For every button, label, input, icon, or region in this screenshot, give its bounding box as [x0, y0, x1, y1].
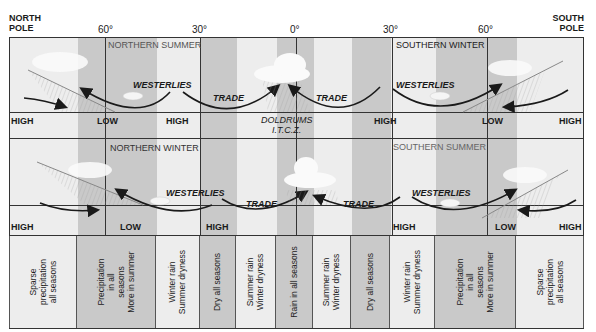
- season-label-southern-winter: SOUTHERN WINTER: [396, 40, 485, 50]
- pressure-label-low: LOW: [482, 116, 503, 126]
- precip-zone-dry-north: Dry all seasons: [200, 236, 236, 328]
- season-label-southern-summer: SOUTHERN SUMMER: [393, 142, 486, 152]
- wind-label-westerlies: WESTERLIES: [133, 80, 192, 90]
- precip-zone-text: Summer rain Winter dryness: [246, 254, 266, 311]
- pressure-label-high: HIGH: [559, 116, 582, 126]
- season-label-northern-winter: NORTHERN WINTER: [110, 143, 199, 153]
- precip-zone-text: Precipitation in all seasons More in sum…: [455, 251, 495, 312]
- pressure-label-high: HIGH: [11, 116, 34, 126]
- precip-zone-rain-all-seasons: Rain in all seasons: [276, 236, 313, 328]
- precip-zone-sparse-south: Sparse precipitation all seasons: [516, 236, 584, 328]
- pressure-label-high: HIGH: [559, 222, 582, 232]
- precip-zone-winter-rain-south: Winter rain Summer dryness: [390, 236, 435, 328]
- wind-label-trade: TRADE: [246, 199, 277, 209]
- pressure-label-high: HIGH: [166, 116, 189, 126]
- wind-label-trade: TRADE: [316, 93, 347, 103]
- precip-zone-sparse-north: Sparse precipitation all seasons: [9, 236, 77, 328]
- precip-zone-text: Dry all seasons: [365, 253, 375, 311]
- precip-zone-dry-south: Dry all seasons: [351, 236, 390, 328]
- pressure-label-high: HIGH: [393, 222, 416, 232]
- precip-zone-summer-rain-north: Summer rain Winter dryness: [236, 236, 276, 328]
- precip-zone-text: Summer rain Winter dryness: [322, 254, 342, 311]
- pressure-label-high: HIGH: [206, 222, 229, 232]
- precip-zone-text: Precipitation in all seasons More in sum…: [96, 251, 136, 312]
- pressure-label-low: LOW: [97, 116, 118, 126]
- precip-zone-text: Sparse precipitation all seasons: [535, 259, 565, 305]
- pressure-label-low: LOW: [120, 222, 141, 232]
- precip-zone-text: Rain in all seasons: [289, 246, 299, 317]
- pressure-label-high: HIGH: [11, 222, 34, 232]
- precip-zone-text: Winter rain Summer dryness: [402, 250, 422, 314]
- wind-label-westerlies: WESTERLIES: [166, 188, 225, 198]
- doldrums-label: DOLDRUMS: [261, 115, 313, 125]
- precip-zone-all-seasons-north: Precipitation in all seasons More in sum…: [77, 236, 156, 328]
- wind-label-trade: TRADE: [213, 93, 244, 103]
- pressure-label-high: HIGH: [374, 116, 397, 126]
- pressure-label-low: LOW: [495, 222, 516, 232]
- wind-label-trade: TRADE: [343, 199, 374, 209]
- season-label-northern-summer: NORTHERN SUMMER: [108, 40, 201, 50]
- precip-zone-winter-rain-north: Winter rain Summer dryness: [156, 236, 200, 328]
- precip-zone-all-seasons-south: Precipitation in all seasons More in sum…: [435, 236, 516, 328]
- precip-zone-text: Sparse precipitation all seasons: [28, 259, 58, 305]
- precip-zone-summer-rain-south: Summer rain Winter dryness: [313, 236, 351, 328]
- precip-zone-text: Dry all seasons: [213, 253, 223, 311]
- wind-label-westerlies: WESTERLIES: [396, 80, 455, 90]
- wind-label-westerlies: WESTERLIES: [412, 188, 471, 198]
- precip-zone-text: Winter rain Summer dryness: [168, 250, 188, 314]
- itcz-label: I.T.C.Z.: [272, 125, 301, 135]
